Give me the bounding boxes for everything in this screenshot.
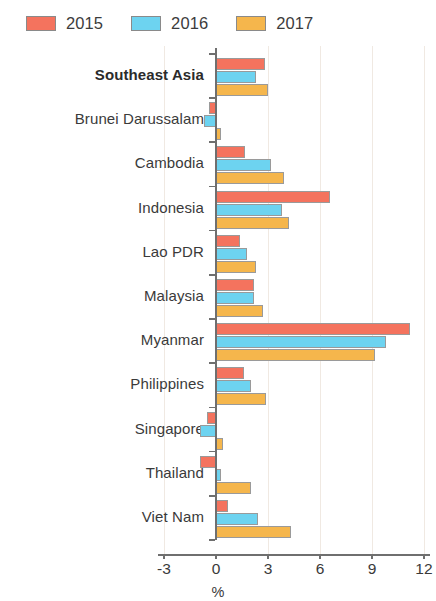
bar-2015-lao-pdr <box>216 235 240 247</box>
bar-2017-philippines <box>216 393 266 405</box>
plot-area: Southeast AsiaBrunei DarussalamCambodiaI… <box>0 46 436 554</box>
category-bars <box>0 96 436 140</box>
chart-category-row: Thailand <box>0 450 436 494</box>
category-bars <box>0 494 436 538</box>
x-axis: % -3036912 <box>0 554 436 601</box>
x-axis-tick-label: 6 <box>316 560 325 578</box>
axis-group-tick <box>209 97 215 99</box>
axis-group-tick <box>209 539 215 541</box>
x-axis-tick <box>423 555 425 559</box>
legend-label: 2017 <box>276 14 313 33</box>
legend-swatch-2016 <box>131 16 161 31</box>
axis-group-tick <box>209 230 215 232</box>
bar-2016-indonesia <box>216 204 282 216</box>
category-bars <box>0 361 436 405</box>
category-bars <box>0 185 436 229</box>
chart-category-row: Indonesia <box>0 185 436 229</box>
x-axis-tick-label: 9 <box>368 560 377 578</box>
x-axis-tick <box>267 555 269 559</box>
axis-group-tick <box>209 53 215 55</box>
chart-category-row: Malaysia <box>0 273 436 317</box>
bar-2017-myanmar <box>216 349 375 361</box>
chart-category-row: Southeast Asia <box>0 52 436 96</box>
x-axis-tick <box>371 555 373 559</box>
bar-2015-thailand <box>200 456 216 468</box>
x-axis-tick-label: 0 <box>212 560 221 578</box>
bar-2015-malaysia <box>216 279 254 291</box>
bar-2017-thailand <box>216 482 251 494</box>
chart-category-row: Lao PDR <box>0 229 436 273</box>
legend-label: 2015 <box>66 14 103 33</box>
bar-2017-indonesia <box>216 217 289 229</box>
bar-2017-southeast-asia <box>216 84 268 96</box>
axis-group-tick <box>209 495 215 497</box>
category-bars <box>0 273 436 317</box>
chart-category-row: Brunei Darussalam <box>0 96 436 140</box>
category-bars <box>0 140 436 184</box>
bar-2015-cambodia <box>216 146 245 158</box>
category-bars <box>0 406 436 450</box>
bar-2015-viet-nam <box>216 500 228 512</box>
bar-2015-indonesia <box>216 191 330 203</box>
chart-category-row: Myanmar <box>0 317 436 361</box>
axis-group-tick <box>209 362 215 364</box>
chart-category-row: Cambodia <box>0 140 436 184</box>
chart-legend: 201520162017 <box>0 0 436 46</box>
bar-2017-singapore <box>216 438 223 450</box>
axis-group-tick <box>209 318 215 320</box>
legend-item-2016: 2016 <box>131 14 208 33</box>
x-axis-tick <box>163 555 165 559</box>
legend-item-2015: 2015 <box>26 14 103 33</box>
x-axis-tick <box>215 555 217 559</box>
category-bars <box>0 317 436 361</box>
bar-2017-malaysia <box>216 305 263 317</box>
bar-2016-lao-pdr <box>216 248 247 260</box>
x-axis-line <box>158 554 430 556</box>
x-axis-tick-label: -3 <box>157 560 171 578</box>
bar-2017-cambodia <box>216 172 284 184</box>
zero-axis-line <box>215 48 217 540</box>
x-axis-tick-label: 3 <box>264 560 273 578</box>
bar-2016-cambodia <box>216 159 271 171</box>
chart-category-row: Singapore <box>0 406 436 450</box>
chart-category-row: Viet Nam <box>0 494 436 538</box>
category-bars <box>0 229 436 273</box>
bar-chart: 201520162017 Southeast AsiaBrunei Daruss… <box>0 0 436 601</box>
axis-group-tick <box>209 186 215 188</box>
bar-2017-lao-pdr <box>216 261 256 273</box>
legend-swatch-2015 <box>26 16 56 31</box>
category-bars <box>0 450 436 494</box>
chart-category-row: Philippines <box>0 361 436 405</box>
bar-2016-singapore <box>200 425 216 437</box>
bar-2017-viet-nam <box>216 526 291 538</box>
legend-label: 2016 <box>171 14 208 33</box>
x-axis-tick-label: 12 <box>415 560 432 578</box>
bar-2016-southeast-asia <box>216 71 256 83</box>
x-axis-title: % <box>0 584 436 600</box>
bar-2016-malaysia <box>216 292 254 304</box>
bar-2015-southeast-asia <box>216 58 265 70</box>
axis-group-tick <box>209 274 215 276</box>
axis-group-tick <box>209 141 215 143</box>
bar-2016-philippines <box>216 380 251 392</box>
category-bars <box>0 52 436 96</box>
bar-2015-philippines <box>216 367 244 379</box>
bar-2016-myanmar <box>216 336 386 348</box>
bar-2016-viet-nam <box>216 513 258 525</box>
legend-item-2017: 2017 <box>236 14 313 33</box>
x-axis-tick <box>319 555 321 559</box>
bar-2015-myanmar <box>216 323 410 335</box>
axis-group-tick <box>209 407 215 409</box>
axis-group-tick <box>209 451 215 453</box>
legend-swatch-2017 <box>236 16 266 31</box>
